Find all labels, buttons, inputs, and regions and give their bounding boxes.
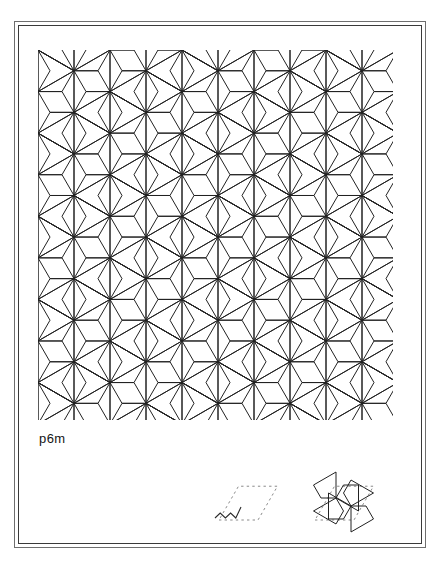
tile-outline [22, 237, 38, 320]
tile-outline [398, 237, 418, 320]
tile-outline [362, 29, 418, 50]
tile-outline [398, 29, 418, 112]
tile-outline [22, 175, 74, 258]
tile-outline [146, 29, 218, 50]
legend-tile-outline [329, 480, 374, 532]
tile-outline [22, 279, 38, 362]
tile-outline [362, 92, 418, 175]
tile-outline [398, 112, 418, 195]
tile-outline [110, 445, 182, 528]
tile-outline [22, 29, 38, 71]
unit-cell-rhombus [219, 486, 278, 520]
tile-outline [110, 528, 182, 540]
plate: p6m [0, 0, 440, 571]
tile-outline [22, 71, 38, 154]
tile-outline [362, 175, 418, 258]
tile-outline [22, 341, 74, 424]
tile-outline [22, 112, 38, 195]
tile-outline [22, 29, 74, 50]
tile-outline [218, 383, 290, 466]
legend [205, 462, 405, 537]
generator-motif [215, 507, 241, 518]
tile-outline [398, 29, 418, 71]
tile-outline [22, 320, 38, 403]
legend-illustration [205, 462, 405, 537]
tile-outline [362, 29, 418, 92]
tile-outline [22, 258, 74, 341]
tile-outline [398, 154, 418, 237]
tile-outline [74, 466, 146, 540]
tile-outline [22, 383, 74, 466]
tile-outline [398, 71, 418, 154]
tile-outline [22, 92, 74, 175]
legend-tile-outline [314, 472, 359, 524]
tile-outline [74, 507, 146, 540]
tile-outline [362, 383, 418, 466]
tile-outline [218, 29, 290, 50]
tile-outline [398, 279, 418, 362]
tile-outline [22, 154, 38, 237]
page-title: p6m [39, 432, 66, 445]
tile-outline [22, 299, 74, 382]
tile-outline [74, 29, 146, 50]
tile-outline [74, 383, 146, 466]
tile-outline [22, 362, 38, 445]
tile-outline [362, 258, 418, 341]
tile-outline [398, 362, 418, 445]
tile-outline [38, 445, 110, 528]
tile-outline [22, 50, 74, 133]
tile-outline [22, 195, 38, 278]
tile-outline [22, 29, 74, 92]
tile-outline [110, 486, 182, 540]
legend-item-unit-cell [215, 486, 278, 520]
tile-outline [74, 424, 146, 507]
tile-outline [290, 29, 362, 50]
tile-outline [362, 341, 418, 424]
tile-outline [398, 195, 418, 278]
tile-outline [398, 320, 418, 403]
legend-item-unit-cell-with-tiles [314, 472, 374, 532]
tile-outline [22, 216, 74, 299]
tile-outline [22, 133, 74, 216]
tile-outline [38, 486, 110, 540]
tile-outline [22, 29, 38, 112]
